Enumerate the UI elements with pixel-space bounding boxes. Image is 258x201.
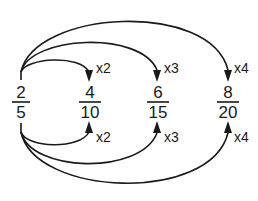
arrowhead-down-icon xyxy=(224,70,232,82)
arc-top-x3 xyxy=(21,42,157,72)
arc-bottom-x2 xyxy=(21,123,89,145)
fraction-4-10: 4 10 xyxy=(79,83,101,122)
arrowhead-up-icon xyxy=(224,121,232,133)
fraction-numerator: 4 xyxy=(85,83,94,102)
multiplier-label: x2 xyxy=(96,60,111,76)
fraction-numerator: 6 xyxy=(153,83,162,102)
source-fraction: 2 5 xyxy=(12,83,30,122)
multiplier-label: x3 xyxy=(164,129,179,145)
fraction-6-15: 6 15 xyxy=(147,83,169,122)
arrowhead-down-icon xyxy=(153,70,161,82)
source-numerator: 2 xyxy=(16,83,25,102)
fraction-denominator: 15 xyxy=(149,103,168,122)
multiplier-label: x3 xyxy=(164,60,179,76)
arrowhead-up-icon xyxy=(153,121,161,133)
fraction-denominator: 10 xyxy=(81,103,100,122)
denominator-arrows: x2 x3 x4 xyxy=(21,121,249,183)
fraction-denominator: 20 xyxy=(219,103,238,122)
source-denominator: 5 xyxy=(16,103,25,122)
multiplier-label: x4 xyxy=(234,129,249,145)
arrowhead-down-icon xyxy=(85,70,93,82)
fraction-8-20: 8 20 xyxy=(217,83,239,122)
multiplier-label: x4 xyxy=(234,60,249,76)
fraction-numerator: 8 xyxy=(223,83,232,102)
numerator-arrows: x2 x3 x4 xyxy=(21,21,249,82)
arc-bottom-x3 xyxy=(21,132,157,164)
arc-top-x2 xyxy=(21,60,89,80)
multiplier-label: x2 xyxy=(96,129,111,145)
equivalent-fractions-diagram: 2 5 4 10 6 15 8 20 x2 x3 x4 xyxy=(0,0,258,201)
arrowhead-up-icon xyxy=(85,121,93,133)
